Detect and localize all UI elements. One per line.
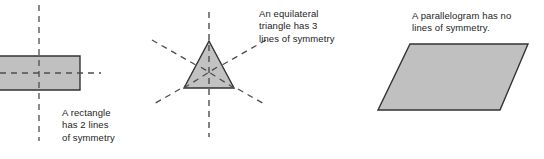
parallelogram-shape bbox=[378, 44, 528, 110]
symmetry-figure-canvas: A rectangle has 2 lines of symmetry An e… bbox=[0, 0, 544, 159]
rectangle-caption: A rectangle has 2 lines of symmetry bbox=[62, 107, 115, 144]
parallelogram-group bbox=[378, 44, 528, 110]
parallelogram-caption: A parallelogram has no lines of symmetry… bbox=[412, 10, 511, 35]
triangle-group bbox=[152, 12, 266, 137]
triangle-caption: An equilateral triangle has 3 lines of s… bbox=[259, 8, 335, 45]
